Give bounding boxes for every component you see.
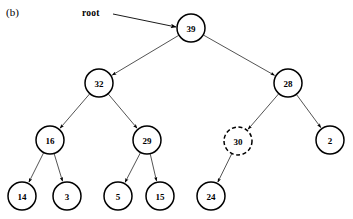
node-label-30: 30: [234, 137, 244, 147]
tree-edge-30-to-24: [218, 154, 232, 182]
tree-node-32[interactable]: 32: [85, 69, 113, 97]
tree-edge-28-to-2: [297, 95, 321, 128]
tree-node-15[interactable]: 15: [146, 182, 174, 210]
node-label-5: 5: [116, 192, 121, 202]
root-pointer-arrow: [113, 14, 176, 27]
tree-edge-32-to-29: [108, 94, 137, 128]
tree-edge-29-to-5: [125, 153, 140, 182]
node-label-29: 29: [143, 136, 153, 146]
tree-node-28[interactable]: 28: [274, 69, 302, 97]
node-label-14: 14: [18, 192, 28, 202]
tree-node-5[interactable]: 5: [104, 182, 132, 210]
tree-edge-16-to-14: [29, 153, 44, 182]
tree-edge-39-to-28: [204, 35, 275, 75]
node-label-28: 28: [284, 79, 294, 89]
binary-tree-figure: (b) root 393228162930214351524: [0, 0, 353, 219]
tree-node-30[interactable]: 30: [224, 127, 252, 155]
tree-node-14[interactable]: 14: [8, 182, 36, 210]
node-label-24: 24: [207, 192, 217, 202]
tree-edge-39-to-32: [112, 35, 178, 75]
node-label-32: 32: [95, 79, 105, 89]
node-label-15: 15: [156, 192, 166, 202]
root-pointer-group: [113, 14, 176, 27]
edges-group: [29, 35, 321, 182]
node-label-3: 3: [65, 192, 70, 202]
tree-node-2[interactable]: 2: [316, 126, 344, 154]
node-label-39: 39: [187, 24, 197, 34]
tree-edge-32-to-16: [60, 94, 89, 128]
nodes-group: 393228162930214351524: [8, 14, 344, 210]
tree-node-24[interactable]: 24: [197, 182, 225, 210]
node-label-16: 16: [46, 136, 56, 146]
tree-edge-28-to-30: [248, 94, 278, 129]
tree-edge-16-to-3: [54, 154, 62, 181]
tree-node-29[interactable]: 29: [133, 126, 161, 154]
tree-edge-29-to-15: [150, 154, 156, 181]
tree-node-16[interactable]: 16: [36, 126, 64, 154]
node-label-2: 2: [328, 136, 333, 146]
tree-node-39[interactable]: 39: [177, 14, 205, 42]
tree-canvas: 393228162930214351524: [0, 0, 353, 219]
tree-node-3[interactable]: 3: [53, 182, 81, 210]
